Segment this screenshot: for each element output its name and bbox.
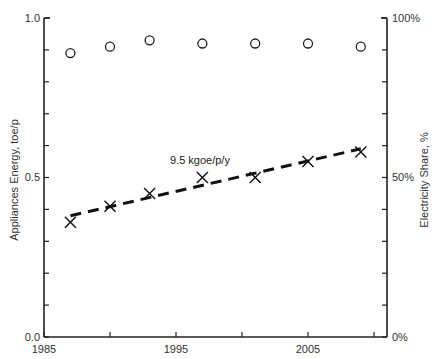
circle-marker (66, 49, 75, 58)
y-axis-title: Appliances Energy, toe/p (8, 119, 20, 240)
circle-marker (198, 39, 207, 48)
circle-marker (304, 39, 313, 48)
x-tick-label-1995: 1995 (164, 343, 188, 355)
chart: 0.0 0.5 1.0 1985 1995 2005 0% 50% 100% A… (0, 0, 436, 359)
circle-marker (106, 42, 115, 51)
y2-axis-title: Electricity Share, % (418, 132, 430, 228)
circle-marker (145, 36, 154, 45)
x-marker (197, 172, 208, 183)
x-marker (65, 217, 76, 228)
y2-tick-label-0: 0% (392, 331, 408, 343)
trend-annotation: 9.5 kgoe/p/y (170, 154, 230, 166)
x-tick-label-1985: 1985 (32, 343, 56, 355)
axes (44, 18, 387, 337)
y2-tick-label-100: 100% (392, 12, 420, 24)
x-marker (355, 146, 366, 157)
x-tick-label-2005: 2005 (296, 343, 320, 355)
y-tick-label-1: 1.0 (25, 12, 40, 24)
circle-marker (251, 39, 260, 48)
series-layer (65, 36, 366, 228)
y-tick-label-0: 0.0 (25, 331, 40, 343)
circle-marker (356, 42, 365, 51)
y2-tick-label-50: 50% (392, 171, 414, 183)
y-tick-label-0.5: 0.5 (25, 171, 40, 183)
